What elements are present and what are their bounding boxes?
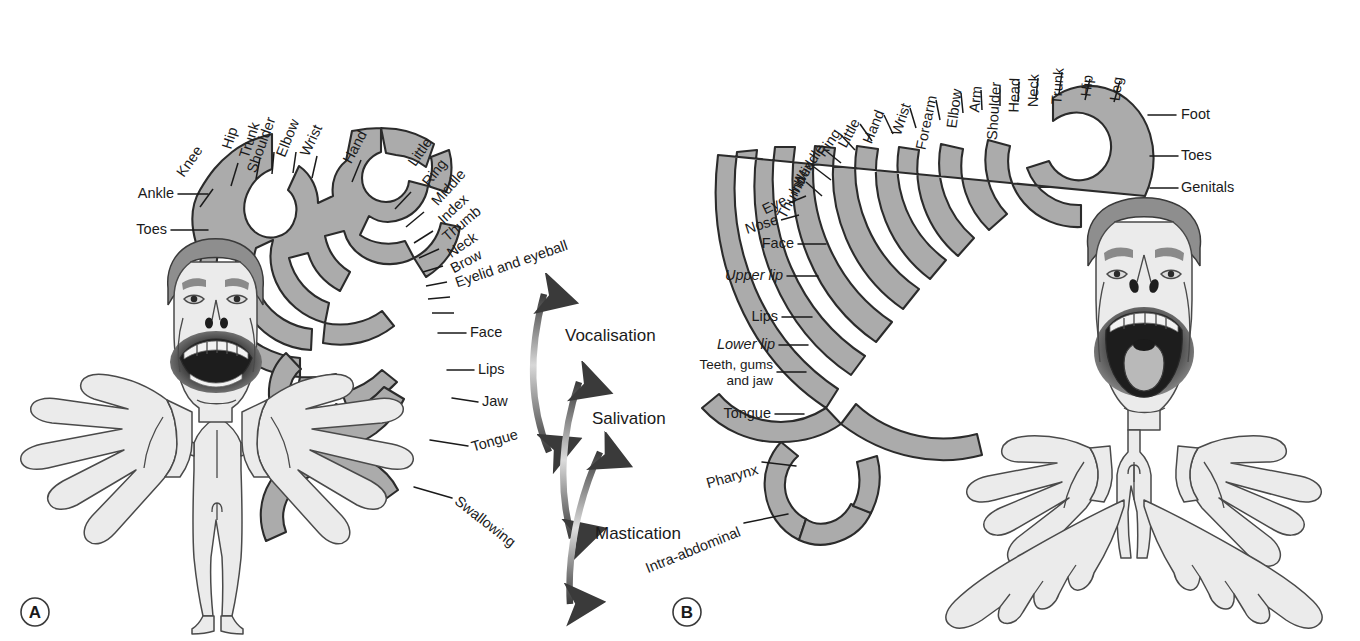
right-pupil-b: [1168, 271, 1174, 277]
tongue-root-shadow-b: [1133, 339, 1155, 351]
label-a-face: Face: [470, 324, 502, 340]
label-b-teeth-gums-and-jaw-l1: Teeth, gums: [699, 357, 773, 372]
label-a-mastication: Mastication: [595, 524, 681, 543]
right-nostril-a: [220, 318, 228, 329]
label-b-genitals: Genitals: [1181, 179, 1234, 195]
label-a-salivation: Salivation: [592, 409, 666, 428]
left-nostril-a: [205, 318, 213, 329]
homunculus-figure: Knee Hip Trunk Shoulder Elbow Wrist Hand…: [0, 0, 1360, 641]
label-b-lips: Lips: [751, 308, 778, 324]
label-b-trunk: Trunk: [1048, 67, 1067, 105]
label-a-vocalisation: Vocalisation: [565, 326, 656, 345]
label-b-foot: Foot: [1181, 106, 1210, 122]
left-pupil-b: [1114, 271, 1120, 277]
right-pupil-a: [234, 296, 241, 303]
label-b-head: Head: [1006, 78, 1023, 113]
label-a-toes: Toes: [136, 221, 167, 237]
label-b-lower-lip: Lower lip: [717, 336, 775, 352]
label-b-upper-lip: Upper lip: [725, 267, 783, 283]
panel-a-letter-text: A: [29, 603, 41, 622]
label-b-arm: Arm: [966, 85, 985, 113]
label-b-hip: Hip: [1078, 74, 1096, 97]
label-b-tongue: Tongue: [723, 405, 771, 421]
label-b-toes: Toes: [1181, 147, 1212, 163]
label-b-teeth-gums-and-jaw-l2: and jaw: [726, 373, 773, 388]
label-b-face: Face: [762, 235, 794, 251]
left-pupil-a: [191, 296, 198, 303]
label-b-leg: Leg: [1107, 76, 1126, 102]
label-a-lips: Lips: [478, 361, 505, 377]
label-b-neck: Neck: [1025, 73, 1042, 107]
label-a-jaw: Jaw: [482, 393, 508, 409]
panel-b-letter-text: B: [681, 603, 693, 622]
label-a-ankle: Ankle: [138, 185, 174, 201]
figure-canvas: Knee Hip Trunk Shoulder Elbow Wrist Hand…: [0, 0, 1360, 641]
